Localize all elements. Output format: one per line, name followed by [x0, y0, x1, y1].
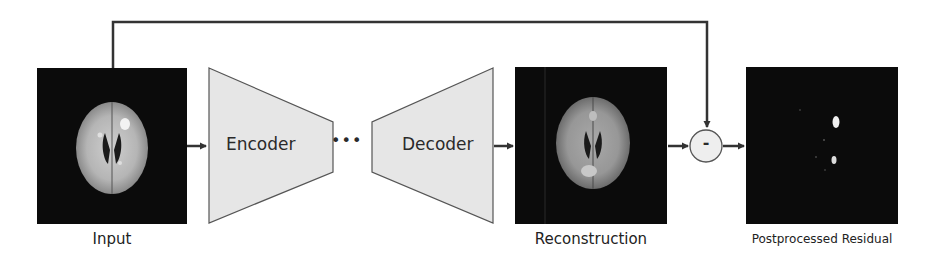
- reconstruction-caption: Reconstruction: [500, 230, 682, 248]
- residual-caption: Postprocessed Residual: [736, 232, 908, 246]
- decoder-label: Decoder: [402, 134, 474, 154]
- input-brain-icon: [76, 102, 148, 194]
- minus-sign: -: [697, 133, 715, 152]
- bottleneck-ellipsis: •••: [331, 131, 362, 150]
- input-caption: Input: [37, 230, 187, 248]
- residual-image-frame: [746, 67, 898, 224]
- reconstruction-brain-icon: [556, 97, 630, 189]
- encoder-label: Encoder: [226, 134, 296, 154]
- autoencoder-diagram: Encoder ••• Decoder - Input Reconstructi…: [0, 0, 936, 267]
